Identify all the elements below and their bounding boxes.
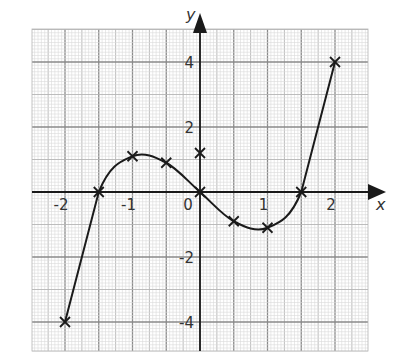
y-axis-label: y — [185, 5, 196, 24]
y-tick-label: 4 — [184, 54, 194, 72]
function-graph: xy -2-101242-2-4 — [0, 0, 403, 364]
x-axis-label: x — [375, 195, 386, 214]
x-tick-label: -2 — [54, 196, 69, 214]
tick-labels: -2-101242-2-4 — [54, 54, 336, 332]
y-tick-label: -2 — [179, 249, 194, 267]
x-tick-label: 0 — [183, 196, 193, 214]
x-tick-label: 2 — [326, 196, 336, 214]
x-tick-label: 1 — [259, 196, 269, 214]
x-tick-label: -1 — [121, 196, 136, 214]
y-tick-label: 2 — [184, 119, 194, 137]
y-tick-label: -4 — [179, 314, 194, 332]
